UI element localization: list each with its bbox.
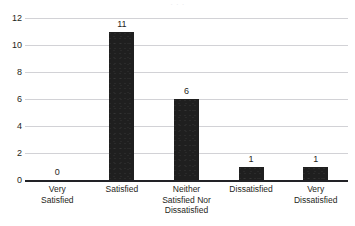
bar-value-label: 11 <box>117 20 126 29</box>
bar <box>303 167 328 181</box>
x-axis-category-label: Neither Satisfied Nor Dissatisfied <box>162 184 211 216</box>
bar-value-label: 1 <box>249 155 254 164</box>
y-axis-tick-label: 8 <box>2 68 22 77</box>
x-axis-baseline <box>25 180 348 182</box>
clipped-title-remnant: · · · <box>0 0 355 9</box>
x-axis-category-label: Very Satisfied <box>41 184 74 205</box>
gridline <box>25 45 348 46</box>
y-axis-tick-label: 2 <box>2 149 22 158</box>
bar-value-label: 0 <box>55 168 60 177</box>
bar <box>174 99 199 180</box>
y-axis-tick-label: 10 <box>2 41 22 50</box>
y-axis-tick-label: 6 <box>2 95 22 104</box>
bar <box>239 167 264 181</box>
y-axis-tick-label: 0 <box>2 176 22 185</box>
y-axis-tick-label: 12 <box>2 14 22 23</box>
x-axis-category-label: Satisfied <box>106 184 139 195</box>
plot-area <box>25 18 348 180</box>
x-axis-category-label: Dissatisfied <box>229 184 272 195</box>
gridline <box>25 72 348 73</box>
chart-figure: · · · 024681012 011611 Very SatisfiedSat… <box>0 0 355 226</box>
gridline <box>25 18 348 19</box>
bar-value-label: 1 <box>313 155 318 164</box>
bar <box>109 32 134 181</box>
x-axis-category-label: Very Dissatisfied <box>294 184 337 205</box>
bar-value-label: 6 <box>184 87 189 96</box>
y-axis-tick-label: 4 <box>2 122 22 131</box>
